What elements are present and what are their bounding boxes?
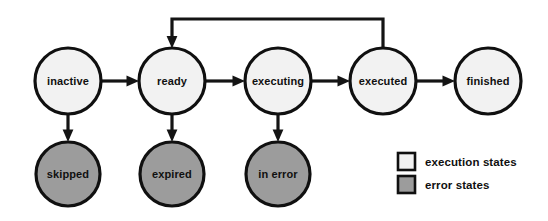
state-node-expired-label: expired — [152, 168, 192, 180]
state-node-executed[interactable]: executed — [350, 48, 416, 114]
edge-ready-to-expired-arrowhead — [167, 130, 178, 143]
legend-label-execution-states: execution states — [425, 156, 517, 168]
state-node-executing[interactable]: executing — [245, 48, 311, 114]
legend-item-execution-states: execution states — [398, 153, 517, 170]
edge-ready-to-executing-arrowhead — [233, 76, 246, 87]
state-node-executed-label: executed — [359, 75, 408, 87]
state-node-expired[interactable]: expired — [140, 142, 204, 206]
edge-inactive-to-skipped — [63, 114, 74, 142]
edge-inactive-to-ready-arrowhead — [127, 76, 140, 87]
state-node-skipped[interactable]: skipped — [36, 142, 100, 206]
state-node-finished[interactable]: finished — [455, 48, 521, 114]
edge-executing-to-executed — [311, 76, 350, 87]
state-node-ready-label: ready — [157, 75, 188, 87]
edge-inactive-to-ready — [101, 76, 139, 87]
state-node-finished-label: finished — [467, 75, 510, 87]
edge-executing-to-in-error-arrowhead — [273, 130, 284, 143]
state-node-skipped-label: skipped — [47, 168, 89, 180]
legend-swatch-error-states — [398, 176, 415, 193]
edge-executing-to-executed-arrowhead — [338, 76, 351, 87]
state-diagram-canvas: inactive ready executing executed finish… — [0, 0, 548, 221]
edge-ready-to-expired — [167, 114, 178, 142]
edge-executed-to-ready — [167, 19, 383, 49]
state-node-inactive-label: inactive — [47, 75, 89, 87]
edge-executed-to-finished — [416, 76, 455, 87]
edge-executed-to-finished-arrowhead — [443, 76, 456, 87]
state-node-in-error-label: in error — [258, 168, 298, 180]
legend-item-error-states: error states — [398, 176, 489, 193]
state-node-ready[interactable]: ready — [139, 48, 205, 114]
state-node-inactive[interactable]: inactive — [35, 48, 101, 114]
legend: execution states error states — [398, 153, 517, 193]
edge-executing-to-in-error — [273, 114, 284, 142]
edge-inactive-to-skipped-arrowhead — [63, 130, 74, 143]
legend-swatch-execution-states — [398, 153, 415, 170]
edge-ready-to-executing — [205, 76, 245, 87]
state-node-executing-label: executing — [252, 75, 304, 87]
legend-label-error-states: error states — [425, 179, 489, 191]
edge-executed-to-ready-line — [172, 19, 383, 48]
state-diagram-container: inactive ready executing executed finish… — [0, 0, 548, 221]
state-node-in-error[interactable]: in error — [246, 142, 310, 206]
